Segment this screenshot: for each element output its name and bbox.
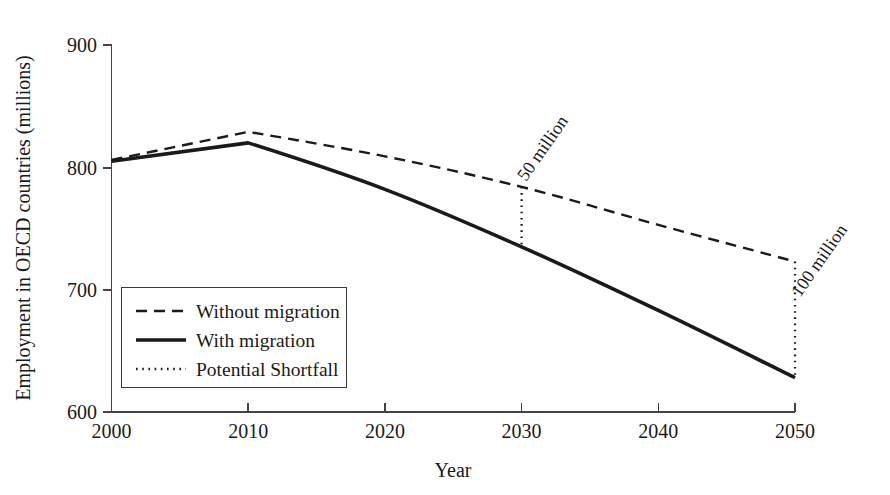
legend-label-with-migration: With migration xyxy=(196,330,315,351)
x-tick-label-2020: 2020 xyxy=(365,420,405,442)
legend-label-potential-shortfall: Potential Shortfall xyxy=(196,359,339,380)
x-tick-label-2030: 2030 xyxy=(502,420,542,442)
y-axis-title: Employment in OECD countries (millions) xyxy=(12,55,35,401)
x-tick-label-2040: 2040 xyxy=(638,420,678,442)
y-axis-ticks xyxy=(103,45,112,412)
chart-figure: 900 800 700 600 2000 2010 2020 2030 2040… xyxy=(0,0,890,495)
series-line-without-migration xyxy=(112,132,796,262)
x-tick-label-2010: 2010 xyxy=(228,420,268,442)
x-axis-title: Year xyxy=(435,459,472,481)
x-tick-label-2000: 2000 xyxy=(92,420,132,442)
x-tick-label-2050: 2050 xyxy=(775,420,815,442)
annotation-50-million: 50 million xyxy=(513,112,572,185)
legend-label-without-migration: Without migration xyxy=(196,301,340,322)
chart-legend: Without migration With migration Potenti… xyxy=(122,288,347,388)
annotation-100-million: 100 million xyxy=(787,220,851,300)
y-tick-label-700: 700 xyxy=(67,279,97,301)
line-chart-svg: 900 800 700 600 2000 2010 2020 2030 2040… xyxy=(0,0,890,495)
y-tick-label-900: 900 xyxy=(67,34,97,56)
x-axis-ticks xyxy=(112,403,796,412)
y-tick-label-800: 800 xyxy=(67,157,97,179)
